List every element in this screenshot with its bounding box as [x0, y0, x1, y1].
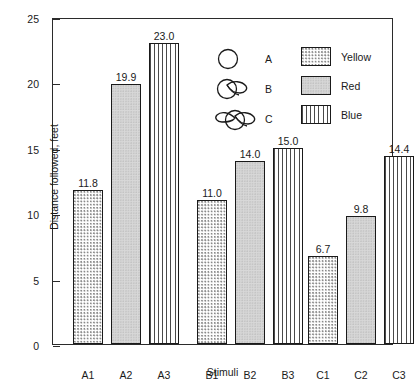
- shape-legend-item: B: [213, 75, 285, 105]
- circle-two-wing-shape-icon: [213, 105, 257, 133]
- y-axis-tick: [53, 346, 60, 347]
- shape-legend-item: A: [213, 45, 285, 75]
- shape-legend-letter: B: [265, 83, 272, 95]
- color-legend-item: Red: [301, 76, 411, 105]
- bar-value-label: 15.0: [265, 135, 311, 147]
- y-axis-tick-label: 10: [13, 210, 39, 221]
- bar-value-label: 14.4: [376, 143, 418, 155]
- bar-B1: [197, 200, 227, 344]
- color-legend-label: Blue: [341, 109, 362, 121]
- color-legend-item: Blue: [301, 105, 411, 134]
- blue-pattern-swatch-icon: [301, 105, 331, 124]
- y-axis-tick: [53, 19, 60, 20]
- bar-value-label: 23.0: [141, 30, 187, 42]
- y-axis-tick-label: 5: [13, 276, 39, 287]
- color-legend-label: Red: [341, 80, 360, 92]
- bar-value-label: 9.8: [338, 203, 384, 215]
- y-axis-tick-label: 0: [13, 341, 39, 352]
- bar-B3: [273, 148, 303, 344]
- bar-C2: [346, 216, 376, 344]
- bar-A2: [111, 84, 141, 344]
- color-pattern-legend: YellowRedBlue: [301, 47, 411, 134]
- shape-legend-item: C: [213, 105, 285, 135]
- shape-legend-letter: A: [265, 53, 272, 65]
- y-axis-tick-label: 20: [13, 79, 39, 90]
- y-axis-title: Distance followed, feet: [48, 72, 60, 282]
- bar-C3: [384, 156, 414, 344]
- color-legend-label: Yellow: [341, 51, 371, 63]
- bar-A3: [149, 43, 179, 344]
- x-axis-title: Stimuli: [52, 366, 393, 378]
- bar-value-label: 19.9: [103, 71, 149, 83]
- stimulus-shape-legend: ABC: [213, 45, 285, 135]
- circle-one-wing-shape-icon: [213, 75, 257, 103]
- bar-B2: [235, 161, 265, 344]
- shape-legend-letter: C: [265, 113, 273, 125]
- color-legend-item: Yellow: [301, 47, 411, 76]
- bar-C1: [308, 256, 338, 344]
- y-axis-tick-label: 15: [13, 145, 39, 156]
- y-axis-tick-label: 25: [13, 14, 39, 25]
- bar-A1: [73, 190, 103, 344]
- bar-value-label: 11.0: [189, 187, 235, 199]
- plot-area: 0510152025 A1A2A3B1B2B3C1C2C3 11.819.923…: [52, 18, 393, 345]
- yellow-pattern-swatch-icon: [301, 47, 331, 66]
- bar-value-label: 14.0: [227, 148, 273, 160]
- bar-value-label: 11.8: [65, 177, 111, 189]
- circle-shape-icon: [213, 45, 257, 73]
- red-pattern-swatch-icon: [301, 76, 331, 95]
- bar-value-label: 6.7: [300, 243, 346, 255]
